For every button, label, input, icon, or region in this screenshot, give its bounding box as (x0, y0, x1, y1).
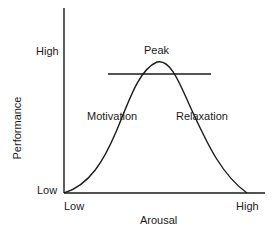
y-tick-high: High (36, 45, 59, 57)
y-tick-low: Low (37, 184, 57, 196)
relaxation-label: Relaxation (176, 110, 228, 122)
x-axis-title: Arousal (140, 214, 177, 226)
x-tick-low: Low (64, 200, 84, 212)
peak-label: Peak (144, 44, 170, 56)
y-axis-title: Performance (11, 97, 23, 160)
performance-curve (64, 62, 247, 193)
x-tick-high: High (236, 200, 259, 212)
motivation-label: Motivation (87, 110, 137, 122)
inverted-u-diagram: High Low Low High Arousal Performance Pe… (0, 0, 279, 236)
